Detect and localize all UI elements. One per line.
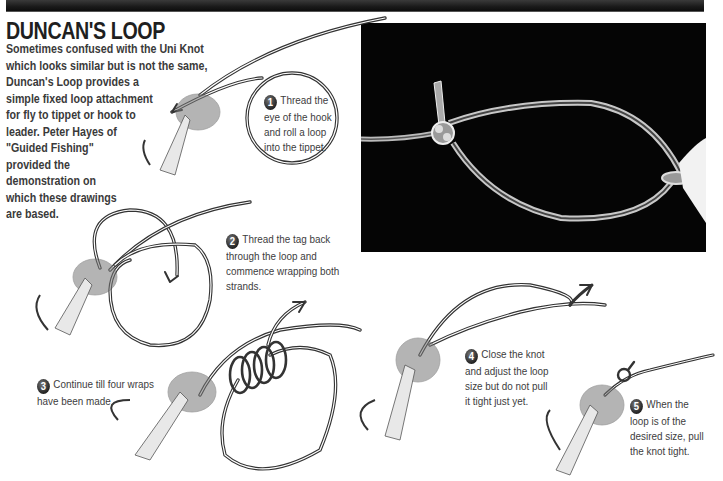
step-text: have been made.	[37, 394, 154, 409]
step-4-caption: 4Close the knot and adjust the loop size…	[465, 347, 549, 409]
step-text: into the tippet.	[264, 140, 332, 155]
step-text: Thread the	[280, 94, 328, 106]
step3-drawing	[200, 302, 360, 469]
step-text: eye of the hook	[264, 110, 332, 125]
step-text: and roll a loop	[264, 125, 332, 140]
step-text: strands.	[226, 279, 339, 294]
step-text: desired size, pull	[630, 429, 704, 444]
step-3-caption: 3Continue till four wraps have been made…	[37, 377, 154, 409]
step-text: the knot tight.	[630, 444, 704, 459]
step-text: through the loop and	[226, 249, 339, 264]
step-5-caption: 5When the loop is of the desired size, p…	[630, 397, 704, 459]
step5-drawing	[605, 355, 713, 395]
step-text: commence wrapping both	[226, 264, 339, 279]
step-text: size but do not pull	[465, 379, 549, 394]
step-number-badge: 3	[37, 379, 50, 394]
step-text: and adjust the loop	[465, 364, 549, 379]
step-number-badge: 5	[630, 399, 643, 414]
fly-step4	[360, 338, 440, 440]
step-number-badge: 1	[264, 95, 277, 110]
step-1-caption: 1Thread the eye of the hook and roll a l…	[264, 93, 332, 155]
step-2-caption: 2Thread the tag back through the loop an…	[226, 232, 339, 294]
step-text: loop is of the	[630, 414, 704, 429]
step-text: When the	[646, 398, 688, 410]
fly-step5	[547, 385, 624, 475]
step-text: Close the knot	[481, 348, 544, 360]
step-text: Continue till four wraps	[53, 378, 154, 390]
step4-drawing	[420, 285, 605, 355]
step-text: it tight just yet.	[465, 394, 549, 409]
step-text: Thread the tag back	[242, 233, 330, 245]
fly-step2	[36, 259, 117, 335]
fly-step1	[143, 94, 220, 175]
step-number-badge: 4	[465, 349, 478, 364]
step-number-badge: 2	[226, 234, 239, 249]
